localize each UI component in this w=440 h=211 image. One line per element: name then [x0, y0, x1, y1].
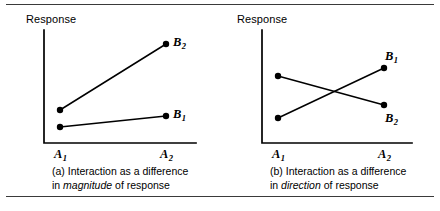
panel-a-caption-line2: in magnitude of response — [52, 179, 188, 193]
panel-a: Response B2 B1 A1 A2 (a) Interaction as … — [0, 0, 220, 196]
x-tick-label-a2-base: A — [378, 147, 386, 161]
series-label-b1-a: B1 — [173, 108, 186, 121]
panel-b-caption: (b) Interaction as a difference in direc… — [270, 165, 406, 192]
data-point-b1-a1 — [275, 115, 281, 121]
x-tick-label-a2: A2 — [378, 148, 391, 161]
series-label-b2-a-base: B — [173, 35, 181, 49]
panel-a-caption: (a) Interaction as a difference in magni… — [52, 165, 188, 192]
panel-b-caption-emphasis: direction — [281, 179, 321, 191]
series-label-b2-b-sub: 2 — [394, 117, 398, 127]
x-tick-label-a1-base: A — [54, 147, 62, 161]
figure-interaction-plots: Response B2 B1 A1 A2 (a) Interaction as … — [0, 0, 440, 211]
data-point-b2-a2 — [163, 41, 169, 47]
series-line-b1-a — [60, 116, 166, 127]
series-line-b1-b — [278, 68, 384, 118]
series-label-b1-a-base: B — [173, 107, 181, 121]
data-point-b1-a1 — [57, 124, 63, 130]
x-tick-label-a1-sub: 1 — [281, 153, 285, 163]
series-label-b2-b: B2 — [385, 112, 398, 125]
panel-b-caption-line1: (b) Interaction as a difference — [270, 165, 406, 179]
series-label-b1-a-sub: 1 — [182, 113, 186, 123]
axes-b — [262, 30, 412, 143]
data-point-b2-a1 — [57, 107, 63, 113]
panel-b-caption-line2: in direction of response — [270, 179, 406, 193]
x-tick-label-a2: A2 — [160, 148, 173, 161]
series-label-b2-a-sub: 2 — [182, 41, 186, 51]
series-line-b2-a — [60, 44, 166, 110]
bottom-divider-rule — [6, 196, 434, 197]
series-label-b2-b-base: B — [385, 111, 393, 125]
panel-a-caption-line2-post: of response — [112, 179, 170, 191]
x-tick-label-a2-base: A — [160, 147, 168, 161]
panel-b: Response B1 B2 A1 A2 (b) Interaction as … — [220, 0, 440, 196]
series-label-b2-a: B2 — [173, 36, 186, 49]
panel-a-caption-line1: (a) Interaction as a difference — [52, 165, 188, 179]
x-tick-label-a2-sub: 2 — [169, 153, 173, 163]
series-label-b1-b-base: B — [385, 49, 393, 63]
series-label-b1-b-sub: 1 — [394, 55, 398, 65]
x-tick-label-a1: A1 — [272, 148, 285, 161]
x-tick-label-a1-base: A — [272, 147, 280, 161]
panel-b-caption-line2-post: of response — [321, 179, 379, 191]
data-point-b1-a2 — [163, 113, 169, 119]
series-label-b1-b: B1 — [385, 50, 398, 63]
series-line-b2-b — [278, 76, 384, 105]
x-tick-label-a1-sub: 1 — [63, 153, 67, 163]
x-tick-label-a1: A1 — [54, 148, 67, 161]
panel-a-caption-line2-pre: in — [52, 179, 63, 191]
x-tick-label-a2-sub: 2 — [387, 153, 391, 163]
data-point-b1-a2 — [381, 65, 387, 71]
data-point-b2-a2 — [381, 102, 387, 108]
panel-b-caption-line2-pre: in — [270, 179, 281, 191]
data-point-b2-a1 — [275, 73, 281, 79]
panel-a-caption-emphasis: magnitude — [63, 179, 112, 191]
